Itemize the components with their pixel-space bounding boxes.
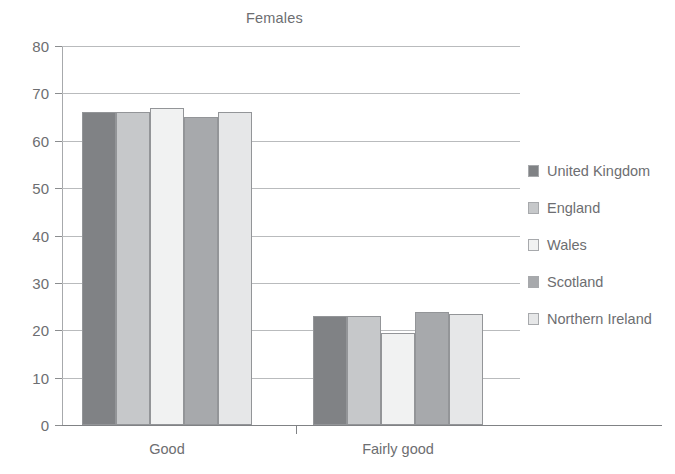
legend-swatch-icon — [528, 276, 539, 288]
plot-area — [62, 46, 520, 426]
legend-swatch-icon — [528, 202, 539, 214]
y-axis-tick-label: 70 — [5, 85, 49, 102]
legend-swatch-icon — [528, 313, 539, 325]
y-tick-mark — [55, 330, 62, 331]
bar — [415, 312, 449, 425]
legend-label: Wales — [547, 237, 587, 253]
y-tick-mark — [55, 378, 62, 379]
y-axis-tick-label: 80 — [5, 38, 49, 55]
y-tick-mark — [55, 93, 62, 94]
legend: United KingdomEnglandWalesScotlandNorthe… — [528, 152, 652, 337]
chart-title: Females — [246, 10, 303, 26]
legend-label: England — [547, 200, 600, 216]
y-axis-tick-label: 10 — [5, 369, 49, 386]
bar — [313, 316, 347, 425]
bar — [82, 112, 116, 425]
y-tick-mark — [55, 46, 62, 47]
legend-item[interactable]: United Kingdom — [528, 152, 652, 189]
y-tick-mark — [55, 425, 62, 426]
y-axis-tick-label: 30 — [5, 274, 49, 291]
gridline — [62, 46, 520, 47]
bar — [184, 117, 218, 425]
y-tick-mark — [55, 236, 62, 237]
y-axis-tick-label: 20 — [5, 322, 49, 339]
y-tick-mark — [55, 188, 62, 189]
legend-swatch-icon — [528, 239, 539, 251]
y-axis-tick-label: 0 — [5, 417, 49, 434]
bar — [116, 112, 150, 425]
legend-label: Northern Ireland — [547, 311, 652, 327]
legend-item[interactable]: England — [528, 189, 652, 226]
x-axis-group-divider — [296, 425, 297, 434]
x-axis-line — [62, 425, 662, 426]
x-axis-category-label: Fairly good — [362, 441, 434, 457]
y-tick-mark — [55, 141, 62, 142]
legend-item[interactable]: Northern Ireland — [528, 300, 652, 337]
bar — [218, 112, 252, 425]
bar — [150, 108, 184, 425]
x-axis-category-label: Good — [149, 441, 184, 457]
y-axis-tick-label: 50 — [5, 180, 49, 197]
legend-label: United Kingdom — [547, 163, 650, 179]
legend-item[interactable]: Wales — [528, 226, 652, 263]
bar — [381, 333, 415, 425]
legend-label: Scotland — [547, 274, 603, 290]
bar — [347, 316, 381, 425]
y-axis-tick-label: 40 — [5, 227, 49, 244]
y-tick-mark — [55, 283, 62, 284]
legend-item[interactable]: Scotland — [528, 263, 652, 300]
y-axis-tick-label: 60 — [5, 132, 49, 149]
bar-chart: Females 80706050403020100 GoodFairly goo… — [0, 0, 675, 474]
bar — [449, 314, 483, 425]
gridline — [62, 93, 520, 94]
legend-swatch-icon — [528, 165, 539, 177]
